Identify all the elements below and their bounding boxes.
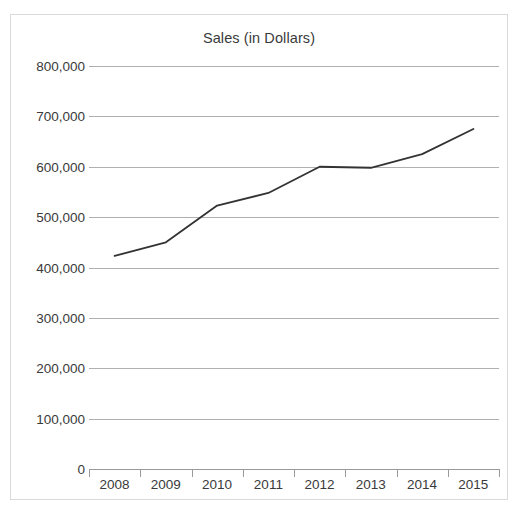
x-tick-mark-1 <box>140 469 141 477</box>
x-tick-label-2008: 2008 <box>87 477 143 492</box>
x-tick-label-2012: 2012 <box>292 477 348 492</box>
y-tick-label-100000: 100,000 <box>13 411 85 426</box>
x-axis-ticks <box>89 469 499 477</box>
x-axis-labels: 20082009201020112012201320142015 <box>89 477 499 501</box>
x-tick-label-2010: 2010 <box>189 477 245 492</box>
y-tick-label-200000: 200,000 <box>13 361 85 376</box>
y-tick-label-500000: 500,000 <box>13 210 85 225</box>
x-tick-mark-2 <box>192 469 193 477</box>
y-tick-label-700000: 700,000 <box>13 109 85 124</box>
x-tick-mark-0 <box>89 469 90 477</box>
x-tick-label-2014: 2014 <box>394 477 450 492</box>
x-tick-mark-3 <box>243 469 244 477</box>
x-tick-mark-4 <box>294 469 295 477</box>
y-tick-label-600000: 600,000 <box>13 159 85 174</box>
chart-figure: Sales (in Dollars) 0100,000200,000300,00… <box>10 14 508 500</box>
y-tick-label-0: 0 <box>13 462 85 477</box>
x-tick-label-2009: 2009 <box>138 477 194 492</box>
y-axis-labels: 0100,000200,000300,000400,000500,000600,… <box>11 66 85 469</box>
x-tick-mark-8 <box>499 469 500 477</box>
y-tick-label-800000: 800,000 <box>13 59 85 74</box>
sales-line-path <box>115 129 474 256</box>
x-tick-label-2013: 2013 <box>343 477 399 492</box>
y-tick-label-300000: 300,000 <box>13 310 85 325</box>
x-tick-label-2015: 2015 <box>445 477 501 492</box>
chart-title: Sales (in Dollars) <box>11 30 507 46</box>
x-tick-mark-5 <box>345 469 346 477</box>
x-tick-mark-6 <box>397 469 398 477</box>
sales-line-series <box>89 66 499 469</box>
y-tick-label-400000: 400,000 <box>13 260 85 275</box>
x-tick-label-2011: 2011 <box>240 477 296 492</box>
x-tick-mark-7 <box>448 469 449 477</box>
